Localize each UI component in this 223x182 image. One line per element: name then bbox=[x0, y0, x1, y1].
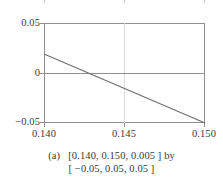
xtick-label-0145: 0.145 bbox=[94, 128, 154, 139]
ytick-label-005pos: 0.05 bbox=[21, 17, 40, 28]
figure-a: 0.05 0 −0.05 0.140 0.145 0.150 (a) [0.14… bbox=[0, 0, 223, 182]
ytick-label-005neg: −0.05 bbox=[15, 116, 40, 127]
xtick-label-0140: 0.140 bbox=[14, 128, 74, 139]
xtick-0150 bbox=[204, 123, 205, 127]
xtick-0145 bbox=[124, 123, 125, 127]
figure-caption: (a) [0.140, 0.150, 0.005 ] by [ −0.05, 0… bbox=[0, 149, 223, 175]
series-linear-function bbox=[44, 54, 205, 123]
ytick-0 bbox=[40, 73, 44, 74]
xtick-label-0150: 0.150 bbox=[174, 128, 223, 139]
plot-area bbox=[44, 23, 205, 123]
ytick-005pos bbox=[40, 23, 44, 24]
caption-line-2: [ −0.05, 0.05, 0.05 ] bbox=[0, 162, 223, 175]
ytick-label-0: 0 bbox=[35, 67, 40, 78]
data-line-chart bbox=[44, 23, 205, 123]
caption-line-1: (a) [0.140, 0.150, 0.005 ] by bbox=[0, 149, 223, 162]
xtick-0140 bbox=[44, 123, 45, 127]
ytick-005neg bbox=[40, 122, 44, 123]
